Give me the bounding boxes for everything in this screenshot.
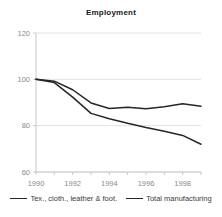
chart-plot-area: 6080100120 19901992199419961998 <box>0 0 222 217</box>
chart-legend: Tex., cloth., leather & foot. Total manu… <box>0 195 222 203</box>
y-tick-label-60: 60 <box>22 168 30 177</box>
gridlines <box>36 33 201 172</box>
legend-label-0: Tex., cloth., leather & foot. <box>30 195 117 203</box>
x-tick-label-1990: 1990 <box>28 179 45 188</box>
legend-line-swatch-1 <box>126 198 143 199</box>
x-tick-label-1998: 1998 <box>174 179 191 188</box>
y-tick-label-80: 80 <box>22 121 30 130</box>
legend-item-1: Total manufacturing <box>126 195 211 203</box>
legend-line-swatch-0 <box>10 198 27 199</box>
y-axis-tick-labels: 6080100120 <box>17 29 36 177</box>
x-tick-label-1992: 1992 <box>64 179 81 188</box>
employment-chart: Employment 6080100120 199019921994199619… <box>0 0 222 217</box>
series-line-1 <box>36 79 201 108</box>
x-tick-label-1996: 1996 <box>138 179 155 188</box>
x-tick-label-1994: 1994 <box>101 179 118 188</box>
y-tick-label-120: 120 <box>17 29 30 38</box>
legend-item-0: Tex., cloth., leather & foot. <box>10 195 117 203</box>
data-series <box>36 79 201 144</box>
axis-lines <box>36 33 201 172</box>
series-line-0 <box>36 79 201 144</box>
x-axis-tick-labels: 19901992199419961998 <box>28 179 191 188</box>
legend-label-1: Total manufacturing <box>146 195 211 203</box>
y-tick-label-100: 100 <box>17 75 30 84</box>
